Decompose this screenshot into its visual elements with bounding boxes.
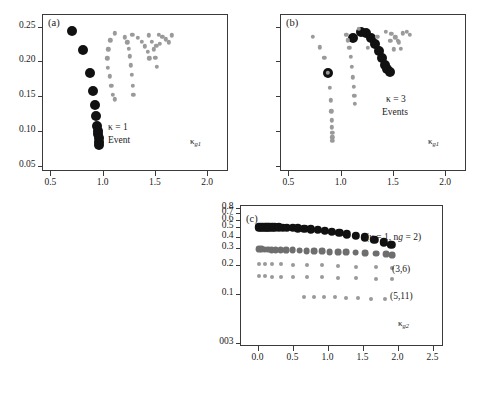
- data-point: [170, 33, 174, 37]
- data-point: [388, 251, 395, 258]
- data-point: [369, 297, 373, 301]
- axis-tick: [236, 208, 241, 209]
- axis-tick-label: 2.0: [392, 352, 404, 362]
- data-point: [372, 250, 379, 257]
- data-point: [143, 44, 147, 48]
- axis-tick-label: 1.5: [387, 177, 399, 187]
- data-point: [125, 40, 129, 44]
- data-point: [322, 295, 326, 299]
- data-point: [140, 39, 144, 43]
- axis-tick: [236, 343, 241, 344]
- data-point: [383, 297, 387, 301]
- axis-tick: [328, 346, 329, 349]
- panel-c-xaxis-label: κg2: [398, 318, 409, 329]
- data-point: [78, 45, 88, 55]
- data-point: [326, 248, 333, 255]
- axis-tick-label: 1.0: [335, 177, 347, 187]
- panel-a: (a) κ = 1 Event κg1: [42, 14, 228, 171]
- data-point: [289, 247, 296, 254]
- axis-tick-label: 0.5: [282, 177, 294, 187]
- data-point: [305, 275, 309, 279]
- axis-tick-label: 0.4: [222, 230, 234, 240]
- panel-b: (b) κ = 3 Events κg1: [280, 14, 466, 171]
- data-point: [112, 97, 116, 101]
- data-point: [127, 46, 131, 50]
- axis-tick-label: 0.3: [222, 241, 234, 251]
- axis-tick-label: 0.5: [44, 177, 56, 187]
- data-point: [303, 248, 310, 255]
- axis-tick-label: 2.5: [427, 352, 439, 362]
- data-point: [362, 250, 369, 257]
- axis-tick: [341, 171, 342, 174]
- axis-tick-label: 1.0: [97, 177, 109, 187]
- data-point: [291, 263, 295, 267]
- data-point: [291, 275, 295, 279]
- panel-a-annotation-line1: κ = 1: [108, 122, 128, 134]
- data-point: [94, 140, 104, 150]
- axis-tick-label: 0.25: [19, 20, 36, 30]
- data-point: [270, 275, 274, 279]
- axis-tick: [433, 346, 434, 349]
- axis-tick: [38, 96, 43, 97]
- data-point: [106, 47, 110, 51]
- data-point: [356, 296, 360, 300]
- data-point: [374, 277, 378, 281]
- panel-c-plot-area: [240, 205, 443, 346]
- data-point: [147, 56, 151, 60]
- data-point: [352, 249, 359, 256]
- data-point: [257, 262, 261, 266]
- data-point: [320, 275, 324, 279]
- data-point: [374, 265, 378, 269]
- panel-c-annotation-main-base: (κ = 1, n: [366, 232, 398, 242]
- data-point: [153, 55, 157, 59]
- data-point: [112, 31, 116, 35]
- axis-tick-label: 0.2: [222, 258, 234, 268]
- data-point: [108, 74, 112, 78]
- axis-tick: [293, 346, 294, 349]
- data-point: [366, 46, 370, 50]
- data-point: [343, 230, 351, 238]
- data-point: [85, 68, 95, 78]
- axis-tick: [276, 27, 281, 28]
- axis-tick-label: 0.5: [287, 352, 299, 362]
- panel-a-plot-area: [42, 14, 228, 171]
- data-point: [128, 54, 132, 58]
- axis-tick-label: 1.5: [357, 352, 369, 362]
- axis-tick: [236, 294, 241, 295]
- data-point: [330, 125, 334, 129]
- data-point: [67, 26, 77, 36]
- data-point: [88, 86, 98, 96]
- data-point: [347, 46, 351, 50]
- axis-tick-label: 1.0: [322, 352, 334, 362]
- panel-a-annotation-line2: Event: [108, 135, 130, 147]
- axis-tick: [393, 171, 394, 174]
- axis-tick-label: 003: [219, 336, 233, 346]
- axis-tick-label: 0.05: [19, 159, 36, 169]
- data-point: [384, 30, 388, 34]
- axis-tick: [103, 171, 104, 174]
- axis-tick: [288, 171, 289, 174]
- axis-tick: [236, 220, 241, 221]
- data-point: [354, 276, 358, 280]
- panel-c-tag: (c): [246, 213, 258, 224]
- axis-tick: [258, 346, 259, 349]
- data-point: [335, 249, 342, 256]
- data-point: [279, 262, 283, 266]
- data-point: [344, 296, 348, 300]
- data-point: [109, 83, 113, 87]
- data-point: [385, 67, 395, 77]
- axis-tick: [236, 227, 241, 228]
- axis-tick: [236, 248, 241, 249]
- data-point: [279, 275, 283, 279]
- panel-c-annotation-5-11: (5,11): [390, 291, 413, 303]
- data-point: [343, 249, 350, 256]
- panel-b-xaxis-label-sub: g1: [433, 140, 440, 147]
- data-point: [354, 265, 358, 269]
- data-point: [336, 264, 340, 268]
- axis-tick-label: 0.0: [252, 352, 264, 362]
- data-point: [108, 38, 112, 42]
- data-point: [408, 32, 412, 36]
- axis-tick: [276, 166, 281, 167]
- axis-tick: [50, 171, 51, 174]
- data-point: [129, 63, 133, 67]
